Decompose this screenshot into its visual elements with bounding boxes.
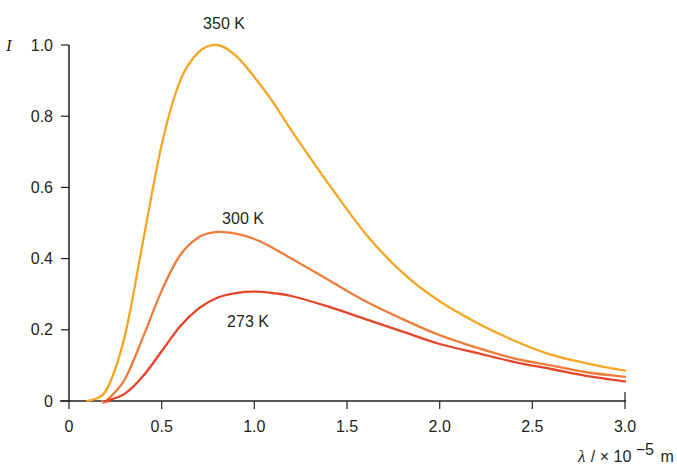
y-axis-title: I (5, 36, 13, 55)
y-tick-label: 0 (44, 393, 53, 410)
chart: 1.0 0.8 0.6 0.4 0.2 0 I 0 0.5 1.0 1.5 2.… (0, 0, 677, 471)
x-tick-label: 2.0 (429, 418, 451, 435)
y-tick-label: 0.6 (31, 179, 53, 196)
y-axis: 1.0 0.8 0.6 0.4 0.2 0 I (5, 36, 69, 410)
curve-350k (88, 45, 626, 401)
x-tick-label: 1.0 (243, 418, 265, 435)
plot-area: 350 K 300 K 273 K (88, 15, 626, 403)
y-tick-label: 1.0 (31, 37, 53, 54)
x-tick-label: 0 (65, 418, 74, 435)
curve-label-300k: 300 K (222, 210, 264, 227)
x-tick-label: 2.5 (521, 418, 543, 435)
x-axis: 0 0.5 1.0 1.5 2.0 2.5 3.0 λ / × 10 −5 m (60, 392, 674, 466)
x-axis-title: λ / × 10 −5 m (577, 441, 674, 466)
curve-300k (102, 232, 625, 403)
y-tick-label: 0.8 (31, 108, 53, 125)
curve-label-350k: 350 K (203, 15, 245, 32)
x-tick-label: 1.5 (336, 418, 358, 435)
curve-273k (105, 292, 625, 402)
x-tick-label: 0.5 (151, 418, 173, 435)
y-tick-label: 0.2 (31, 321, 53, 338)
y-tick-label: 0.4 (31, 250, 53, 267)
curve-label-273k: 273 K (227, 313, 269, 330)
x-tick-label: 3.0 (614, 418, 636, 435)
